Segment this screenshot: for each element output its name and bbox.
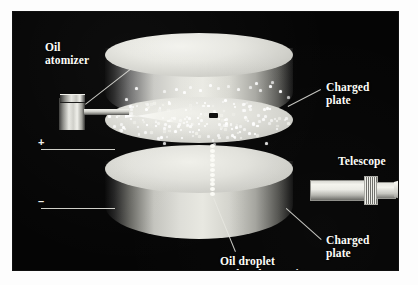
droplet	[279, 90, 282, 93]
droplet	[257, 114, 260, 117]
droplet	[232, 113, 235, 116]
trail-droplet	[210, 173, 215, 177]
droplet	[135, 87, 138, 90]
droplet	[235, 126, 238, 129]
droplet	[181, 137, 183, 139]
droplet	[189, 86, 192, 89]
droplet	[217, 87, 220, 90]
droplet	[227, 85, 230, 88]
droplet	[234, 136, 236, 138]
droplet	[163, 90, 166, 93]
droplet	[245, 118, 248, 121]
droplet	[231, 128, 233, 130]
droplet	[138, 133, 140, 135]
droplet	[155, 125, 157, 127]
droplet	[163, 142, 166, 145]
trail-droplet	[210, 182, 215, 186]
droplet	[145, 103, 147, 105]
trail-droplet	[210, 158, 215, 162]
droplet	[246, 102, 248, 104]
trail-droplet	[210, 144, 215, 148]
trail-droplet	[210, 163, 215, 167]
droplet	[130, 118, 132, 120]
droplet	[195, 132, 198, 135]
droplet	[240, 137, 242, 139]
droplet	[224, 99, 227, 102]
atomizer-cap	[60, 94, 85, 102]
droplet	[183, 91, 186, 94]
droplet	[248, 132, 251, 135]
droplet	[287, 96, 290, 99]
positive-electrode-wire	[41, 149, 115, 150]
droplet	[255, 82, 258, 85]
droplet	[243, 128, 246, 131]
droplet	[219, 137, 221, 139]
falling-droplet-trail	[210, 144, 215, 196]
droplet	[146, 124, 148, 126]
droplet	[160, 136, 163, 139]
trail-droplet	[210, 192, 215, 196]
atomizer-cap-seam	[60, 102, 85, 103]
droplet	[144, 131, 147, 134]
droplet	[180, 129, 182, 131]
oil-atomizer	[59, 94, 129, 130]
droplet	[198, 129, 200, 131]
illustration-panel: + – Oil atomizer Charged plate Telescope…	[13, 12, 398, 270]
droplet	[164, 123, 167, 126]
droplet	[256, 134, 259, 137]
droplet	[269, 108, 271, 110]
droplet	[274, 118, 276, 120]
droplet	[262, 118, 265, 121]
droplet	[284, 119, 286, 121]
oil-droplet-marker	[209, 113, 218, 118]
droplet	[198, 135, 201, 138]
droplet	[223, 110, 225, 112]
droplet	[269, 85, 272, 88]
droplet	[166, 136, 168, 138]
trail-droplet	[210, 168, 215, 172]
droplet	[242, 109, 244, 111]
droplet	[265, 142, 268, 145]
label-charged-plate-lower: Charged plate	[326, 234, 370, 260]
droplet	[264, 115, 267, 118]
trail-droplet	[210, 149, 215, 153]
droplet	[220, 126, 223, 129]
observation-telescope	[310, 175, 398, 205]
droplet	[234, 106, 236, 108]
droplet	[249, 108, 252, 111]
droplet	[224, 128, 227, 131]
atomizer-nozzle	[84, 109, 129, 115]
droplet	[207, 135, 210, 138]
droplet	[287, 122, 290, 125]
droplet	[276, 120, 278, 122]
telescope-barrel	[310, 180, 366, 201]
droplet	[278, 117, 281, 120]
droplet	[163, 130, 166, 133]
lower-cylinder	[105, 151, 293, 249]
droplet	[132, 106, 134, 108]
droplet	[271, 81, 274, 84]
millikan-oil-drop-figure: + – Oil atomizer Charged plate Telescope…	[0, 0, 418, 285]
droplet	[256, 125, 258, 127]
droplet	[250, 105, 252, 107]
droplet	[226, 136, 229, 139]
label-charged-plate-upper: Charged plate	[326, 81, 370, 107]
charged-plate-lower	[105, 145, 293, 193]
droplet	[147, 107, 149, 109]
droplet	[159, 109, 161, 111]
droplet	[199, 89, 202, 92]
droplet	[175, 88, 178, 91]
droplet	[230, 123, 232, 125]
trail-droplet	[210, 154, 215, 158]
droplet	[130, 112, 133, 115]
droplet	[218, 118, 220, 120]
droplet	[133, 121, 136, 124]
droplet	[221, 119, 224, 122]
droplet	[143, 121, 145, 123]
trail-droplet	[210, 178, 215, 182]
droplet	[268, 122, 271, 125]
droplet	[276, 128, 278, 130]
droplet	[220, 114, 223, 117]
trail-droplet	[210, 187, 215, 191]
droplet	[192, 131, 194, 133]
